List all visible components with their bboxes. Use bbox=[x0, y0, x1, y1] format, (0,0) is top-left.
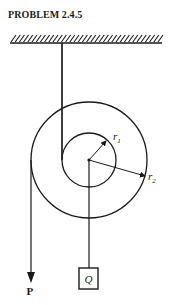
hatch-stroke bbox=[28, 35, 33, 42]
hatch-stroke bbox=[137, 35, 142, 42]
hatch-stroke bbox=[49, 35, 54, 42]
hatch-stroke bbox=[15, 35, 20, 42]
hatch-stroke bbox=[99, 35, 104, 42]
hatch-stroke bbox=[120, 35, 125, 42]
ceiling-support bbox=[10, 35, 163, 43]
hatch-stroke bbox=[40, 35, 45, 42]
hatch-stroke bbox=[154, 35, 159, 42]
hatch-stroke bbox=[45, 35, 50, 42]
r1-label: r1 bbox=[113, 130, 121, 145]
hatch-stroke bbox=[82, 35, 87, 42]
r2-label: r2 bbox=[148, 170, 156, 185]
hatch-stroke bbox=[145, 35, 150, 42]
hatch-stroke bbox=[57, 35, 62, 42]
hatch-stroke bbox=[108, 35, 113, 42]
hatch-stroke bbox=[66, 35, 71, 42]
hatch-stroke bbox=[87, 35, 92, 42]
hatch-stroke bbox=[61, 35, 66, 42]
hatch-stroke bbox=[91, 35, 96, 42]
hatch-stroke bbox=[158, 35, 163, 42]
r2-radius-arrow bbox=[89, 160, 145, 176]
hatch-stroke bbox=[36, 35, 41, 42]
hatch-stroke bbox=[74, 35, 79, 42]
hatch-stroke bbox=[116, 35, 121, 42]
weight-label: Q bbox=[85, 273, 93, 285]
hatch-stroke bbox=[70, 35, 75, 42]
pulley-diagram: r1 r2 P Q bbox=[0, 0, 171, 305]
hatch-stroke bbox=[129, 35, 134, 42]
hatch-stroke bbox=[53, 35, 58, 42]
force-label: P bbox=[27, 285, 34, 297]
force-arrowhead bbox=[27, 272, 35, 283]
hatch-stroke bbox=[32, 35, 37, 42]
hatch-stroke bbox=[133, 35, 138, 42]
r1-radius-arrow bbox=[89, 141, 106, 160]
hatch-stroke bbox=[19, 35, 24, 42]
hatch-stroke bbox=[141, 35, 146, 42]
hatch-stroke bbox=[112, 35, 117, 42]
hatch-stroke bbox=[95, 35, 100, 42]
hatch-stroke bbox=[124, 35, 129, 42]
hatch-stroke bbox=[24, 35, 29, 42]
ceiling-hatching bbox=[11, 35, 163, 42]
hatch-stroke bbox=[103, 35, 108, 42]
hatch-stroke bbox=[11, 35, 16, 42]
hatch-stroke bbox=[78, 35, 83, 42]
hatch-stroke bbox=[150, 35, 155, 42]
